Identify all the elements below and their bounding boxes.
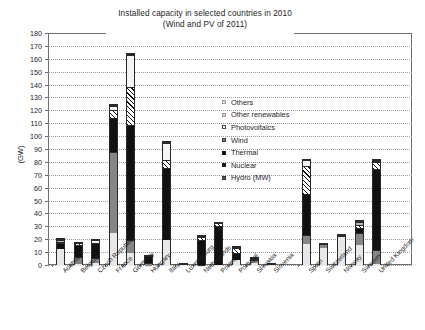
y-axis-tick-label: 40: [0, 209, 42, 218]
legend-item-label: Hydro (MW): [231, 173, 271, 182]
bar-segment-other-renewables: [338, 235, 345, 236]
bar-segment-others: [110, 105, 117, 106]
x-axis-tick: [52, 264, 53, 267]
bar-france: [109, 104, 118, 265]
y-axis-tick-label: 170: [0, 42, 42, 51]
bar-segment-others: [215, 223, 222, 224]
y-axis-tick: [45, 175, 48, 176]
legend-swatch-icon: [222, 151, 226, 155]
y-axis-tick-label: 120: [0, 106, 42, 115]
bar-segment-others: [373, 160, 380, 161]
bar-segment-thermal: [303, 194, 310, 235]
legend-swatch-icon: [222, 163, 226, 167]
y-axis-tick: [45, 46, 48, 47]
legend-item-label: Photovoltaics: [231, 123, 275, 132]
y-axis-tick-label: 10: [0, 248, 42, 257]
legend-item-label: Thermal: [231, 148, 258, 157]
bar-united-kingdom: [372, 159, 381, 265]
bar-segment-others: [127, 54, 134, 55]
bar-segment-wind: [127, 87, 134, 125]
y-axis-tick-label: 60: [0, 184, 42, 193]
gridline: [48, 188, 412, 189]
bar-segment-others: [320, 244, 327, 245]
axis-line-top-left: [48, 33, 106, 34]
bar-segment-thermal: [356, 228, 363, 233]
y-axis-tick: [45, 110, 48, 111]
y-axis-tick: [45, 213, 48, 214]
bar-segment-photovoltaics: [163, 143, 170, 159]
bar-segment-wind: [373, 162, 380, 170]
bar-segment-wind: [356, 225, 363, 229]
legend-swatch-icon: [222, 113, 226, 117]
y-axis-tick: [45, 59, 48, 60]
legend-swatch-icon: [222, 125, 226, 129]
bar-segment-photovoltaics: [110, 106, 117, 110]
gridline: [48, 85, 412, 86]
bar-segment-other-renewables: [356, 222, 363, 225]
y-axis-tick-label: 100: [0, 132, 42, 141]
bar-segment-others: [92, 240, 99, 241]
bar-germany: [126, 53, 135, 265]
x-axis-tick: [298, 264, 299, 267]
y-axis-tick-label: 130: [0, 93, 42, 102]
bar-segment-nuclear: [303, 235, 310, 245]
bar-segment-others: [57, 239, 64, 240]
bar-segment-nuclear: [110, 152, 117, 233]
legend-item: Hydro (MW): [222, 172, 289, 185]
bar-segment-photovoltaics: [303, 160, 310, 166]
bar-segment-others: [163, 142, 170, 143]
legend-item: Wind: [222, 134, 289, 147]
bar-segment-photovoltaics: [57, 242, 64, 243]
y-axis-tick: [45, 162, 48, 163]
bar-segment-thermal: [127, 125, 134, 240]
bar-segment-hydro-mw: [303, 244, 310, 266]
gridline: [48, 59, 412, 60]
bar-segment-thermal: [110, 118, 117, 152]
y-axis-tick-label: 70: [0, 171, 42, 180]
bar-segment-hydro-mw: [57, 249, 64, 266]
y-axis-tick-label: 0: [0, 261, 42, 270]
y-axis-tick: [45, 252, 48, 253]
legend-item: Thermal: [222, 146, 289, 159]
y-axis-tick-label: 150: [0, 68, 42, 77]
bar-segment-wind: [303, 166, 310, 194]
bar-segment-others: [356, 221, 363, 222]
legend-swatch-icon: [222, 138, 226, 142]
bar-segment-others: [303, 160, 310, 161]
bar-segment-wind: [92, 243, 99, 244]
bar-segment-others: [198, 236, 205, 237]
bar-segment-thermal: [57, 243, 64, 249]
bar-segment-nuclear: [356, 233, 363, 245]
bar-austria: [56, 238, 65, 265]
y-axis-tick: [45, 97, 48, 98]
y-axis-tick: [45, 239, 48, 240]
y-axis-tick: [45, 188, 48, 189]
y-axis-tick: [45, 149, 48, 150]
y-axis-tick-label: 80: [0, 158, 42, 167]
bar-segment-others: [233, 247, 240, 248]
bar-segment-wind: [163, 160, 170, 169]
y-axis-tick: [45, 201, 48, 202]
y-axis-tick-label: 90: [0, 145, 42, 154]
legend-swatch-icon: [222, 100, 226, 104]
bar-italy: [162, 141, 171, 265]
gridline: [48, 201, 412, 202]
y-axis-tick-label: 140: [0, 81, 42, 90]
chart-container: Installed capacity in selected countries…: [0, 0, 425, 330]
y-axis-tick: [45, 33, 48, 34]
gridline: [48, 72, 412, 73]
y-axis-tick-label: 160: [0, 55, 42, 64]
legend-item: Others: [222, 96, 289, 109]
axis-line-top-right: [294, 33, 412, 34]
y-axis-tick: [45, 136, 48, 137]
y-axis-tick-label: 50: [0, 197, 42, 206]
legend-item: Other renewables: [222, 109, 289, 122]
y-axis-tick: [45, 72, 48, 73]
y-axis-tick: [45, 226, 48, 227]
legend-item-label: Other renewables: [231, 110, 289, 119]
gridline: [48, 46, 412, 47]
y-axis-tick: [45, 85, 48, 86]
y-axis-tick-label: 180: [0, 29, 42, 38]
bar-segment-wind: [110, 110, 117, 119]
legend-item: Photovoltaics: [222, 121, 289, 134]
